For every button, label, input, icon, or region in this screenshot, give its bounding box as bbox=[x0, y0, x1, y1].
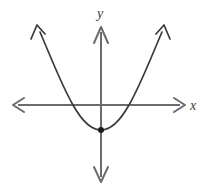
vertex-point-marker bbox=[98, 127, 104, 133]
coordinate-plane-svg: y x bbox=[0, 0, 208, 191]
x-axis-label: x bbox=[189, 98, 197, 113]
parabola-graph-figure: y x bbox=[0, 0, 208, 191]
parabola-right-branch-arrow-icon bbox=[156, 25, 170, 39]
y-axis-label: y bbox=[95, 6, 104, 21]
